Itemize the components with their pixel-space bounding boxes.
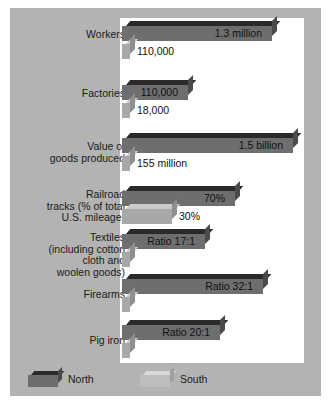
- row-label-line: Firearms: [21, 289, 125, 301]
- chart-container: Workers 1.3 million 110,000 Factories 11…: [10, 8, 321, 396]
- bar-front-face: [122, 252, 130, 267]
- row-label-workers: Workers: [21, 29, 125, 41]
- row-label-railroad-tracks: Railroad tracks (% of total U.S. mileage…: [21, 189, 125, 224]
- bar-front-face: [122, 44, 130, 59]
- swatch-front-face: [140, 375, 170, 387]
- row-label-line: Textiles: [21, 232, 125, 244]
- bar-value-north: 1.5 billion: [239, 139, 283, 152]
- row-label-value-of-goods-produced: Value of goods produced: [21, 141, 125, 164]
- bar-south-workers: 110,000: [122, 44, 130, 59]
- bar-south-factories: 18,000: [122, 103, 130, 118]
- legend-label-south: South: [180, 373, 207, 385]
- bar-south-textiles: [122, 252, 130, 267]
- bar-south-value-of-goods-produced: 155 million: [122, 156, 130, 171]
- row-label-line: Railroad: [21, 189, 125, 201]
- bar-value-south: 30%: [179, 210, 200, 223]
- legend-swatch-north-icon: [28, 375, 58, 387]
- bar-front-face: [122, 343, 130, 358]
- legend-swatch-south-icon: [140, 375, 170, 387]
- row-label-line: Factories: [21, 88, 125, 100]
- bar-south-firearms: [122, 297, 130, 312]
- row-label-line: woolen goods): [21, 267, 125, 279]
- chart-legend: North South: [10, 368, 321, 396]
- row-label-line: goods produced: [21, 153, 125, 165]
- row-label-factories: Factories: [21, 88, 125, 100]
- bar-value-north: Ratio 32:1: [205, 280, 253, 293]
- swatch-side-face: [58, 367, 62, 383]
- bar-value-north: 110,000: [141, 86, 178, 99]
- bar-north-value-of-goods-produced: 1.5 billion: [122, 138, 293, 153]
- row-label-firearms: Firearms: [21, 289, 125, 301]
- row-label-line: U.S. mileage): [21, 212, 125, 224]
- bar-south-railroad-tracks: 30%: [122, 209, 172, 224]
- row-label-line: Workers: [21, 29, 125, 41]
- bar-value-north: Ratio 17:1: [147, 235, 195, 248]
- legend-label-north: North: [68, 373, 94, 385]
- bar-value-south: 155 million: [137, 157, 187, 170]
- swatch-side-face: [170, 367, 174, 383]
- bar-value-north: Ratio 20:1: [162, 326, 210, 339]
- row-label-line: cloth and: [21, 255, 125, 267]
- bar-value-north: 1.3 million: [215, 27, 262, 40]
- row-label-pig-iron: Pig iron: [21, 335, 125, 347]
- row-label-line: Pig iron: [21, 335, 125, 347]
- bar-front-face: [122, 103, 130, 118]
- bar-value-south: 18,000: [137, 104, 169, 117]
- bar-front-face: [122, 156, 130, 171]
- bar-north-workers: 1.3 million: [122, 26, 272, 41]
- bar-value-north: 70%: [204, 192, 225, 205]
- swatch-front-face: [28, 375, 58, 387]
- bar-south-pig-iron: [122, 343, 130, 358]
- row-label-textiles: Textiles (including cotton cloth and woo…: [21, 232, 125, 278]
- row-label-line: Value of: [21, 141, 125, 153]
- bar-north-firearms: Ratio 32:1: [122, 279, 263, 294]
- bar-front-face: [122, 209, 172, 224]
- bar-value-south: 110,000: [137, 45, 174, 58]
- bar-front-face: [122, 297, 130, 312]
